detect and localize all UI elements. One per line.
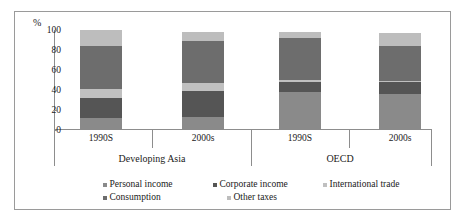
legend-swatch-icon bbox=[323, 183, 327, 187]
group-label: Developing Asia bbox=[82, 153, 222, 165]
legend-swatch-icon bbox=[227, 196, 231, 200]
bars-layer bbox=[55, 30, 432, 130]
bar-segment[interactable] bbox=[279, 92, 321, 130]
bar-column[interactable] bbox=[379, 33, 421, 130]
bar-segment[interactable] bbox=[182, 41, 224, 83]
legend-item-label: International trade bbox=[330, 179, 400, 190]
bar-segment[interactable] bbox=[379, 94, 421, 130]
category-axis-divider bbox=[431, 130, 432, 166]
bar-segment[interactable] bbox=[80, 46, 122, 89]
bar-column[interactable] bbox=[182, 32, 224, 130]
legend-item[interactable]: Consumption bbox=[103, 192, 227, 203]
bar-segment[interactable] bbox=[182, 32, 224, 41]
category-axis-divider bbox=[251, 130, 252, 166]
category-axis-divider bbox=[349, 130, 350, 148]
bar-column[interactable] bbox=[80, 30, 122, 130]
legend-item-label: Corporate income bbox=[220, 179, 288, 190]
bar-segment[interactable] bbox=[80, 89, 122, 98]
legend-item[interactable]: Corporate income bbox=[213, 179, 323, 190]
bar-segment[interactable] bbox=[80, 118, 122, 130]
bar-column[interactable] bbox=[279, 32, 321, 130]
plot-area: % 100806040200 1990S2000s1990S2000sDevel… bbox=[15, 12, 452, 211]
category-axis-divider bbox=[54, 130, 55, 166]
legend-item[interactable]: International trade bbox=[323, 179, 433, 190]
legend-item[interactable]: Personal income bbox=[103, 179, 213, 190]
category-label: 1990S bbox=[61, 133, 141, 144]
legend-item-label: Personal income bbox=[110, 179, 173, 190]
bar-segment[interactable] bbox=[182, 91, 224, 117]
category-label: 1990S bbox=[260, 133, 340, 144]
legend-swatch-icon bbox=[103, 183, 107, 187]
bar-segment[interactable] bbox=[379, 33, 421, 46]
bar-segment[interactable] bbox=[80, 30, 122, 46]
bar-segment[interactable] bbox=[279, 38, 321, 80]
bar-segment[interactable] bbox=[182, 117, 224, 130]
legend-item-label: Other taxes bbox=[234, 192, 278, 203]
group-label: OECD bbox=[270, 153, 410, 165]
legend-item[interactable]: Other taxes bbox=[227, 192, 351, 203]
bar-segment[interactable] bbox=[80, 98, 122, 118]
bar-segment[interactable] bbox=[379, 46, 421, 81]
category-label: 2000s bbox=[163, 133, 243, 144]
bar-segment[interactable] bbox=[379, 82, 421, 94]
legend-swatch-icon bbox=[213, 183, 217, 187]
category-label: 2000s bbox=[360, 133, 440, 144]
category-axis-divider bbox=[152, 130, 153, 148]
legend-row-2: ConsumptionOther taxes bbox=[103, 191, 433, 204]
legend-item-label: Consumption bbox=[110, 192, 161, 203]
bar-segment[interactable] bbox=[182, 83, 224, 91]
bar-segment[interactable] bbox=[279, 82, 321, 92]
legend-swatch-icon bbox=[103, 196, 107, 200]
legend-row-1: Personal incomeCorporate incomeInternati… bbox=[103, 178, 433, 191]
chart-legend: Personal incomeCorporate incomeInternati… bbox=[103, 178, 433, 204]
chart-frame: % 100806040200 1990S2000s1990S2000sDevel… bbox=[14, 11, 451, 210]
